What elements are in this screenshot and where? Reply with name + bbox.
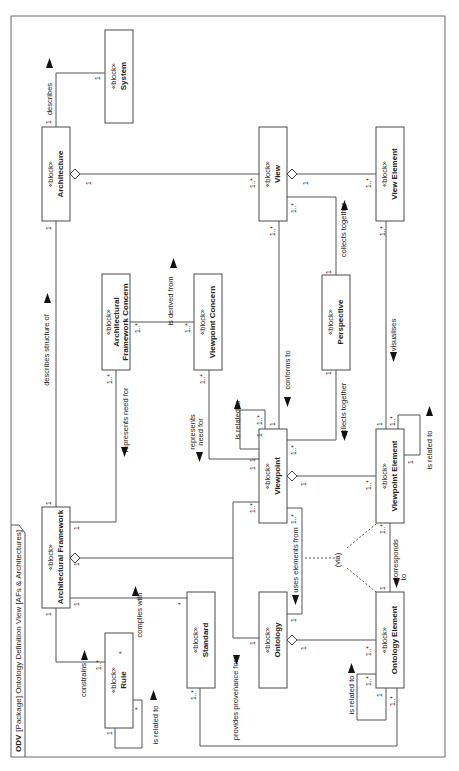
svg-text:1: 1 [256,433,263,437]
svg-text:1: 1 [249,466,256,470]
svg-text:1..*: 1..* [365,178,372,188]
svg-text:1..*: 1..* [95,660,102,670]
label-oelement-is-related-to: is related to [347,676,356,715]
svg-text:1..*: 1..* [290,514,297,524]
svg-text:1: 1 [106,731,113,735]
block-viewpoint[interactable]: «block» Viewpoint [259,429,287,523]
svg-text:1: 1 [73,602,80,606]
label-collects-together-view: collects together [339,202,348,257]
label-need-for: need for [196,418,205,446]
block-name-line1: Architectural [112,297,121,346]
svg-text:1..*: 1..* [249,178,256,188]
block-view[interactable]: «block» View [259,127,287,221]
label-describes: describes [45,83,54,115]
label-to: to [399,574,408,580]
svg-text:1: 1 [249,458,256,462]
svg-text:1: 1 [325,371,332,375]
block-name: Standard [201,623,210,658]
block-name: System [119,62,128,90]
label-visualises: visualises [389,318,398,351]
svg-text:1: 1 [407,460,414,464]
stereotype: «block» [380,627,389,653]
svg-text:1: 1 [290,618,297,622]
block-ontology-element[interactable]: «block» Ontology Element [376,592,404,688]
svg-text:1: 1 [94,76,101,80]
block-name: View Element [390,148,399,200]
stereotype: «block» [109,667,118,693]
label-describes-structure-of: describes structure of [42,313,51,386]
block-name: Perspective [336,299,345,344]
odv-diagram: ODV[Package] Ontology Definition View [A… [0,0,459,771]
label-rule-is-related-to: is related to [151,706,160,745]
svg-text:1: 1 [249,641,256,645]
label-uses-elements-from: uses elements from [291,527,300,592]
label-constrains: constrains [79,663,88,697]
svg-text:1..*: 1..* [190,690,197,700]
svg-text:1..*: 1..* [290,203,297,213]
block-perspective[interactable]: «block» Perspective [322,275,350,370]
block-rule[interactable]: «block» Rule * [105,633,133,728]
label-vpelement-is-related-to: is related to [425,431,434,470]
stereotype: «block» [326,309,335,335]
svg-text:1..*: 1..* [365,646,372,656]
svg-text:1: 1 [379,586,386,590]
svg-text:1: 1 [300,646,307,650]
block-name-line2: Framework Concern [121,283,130,360]
svg-text:1..*: 1..* [379,226,386,236]
svg-text:1..*: 1..* [106,374,113,384]
stereotype: «block» [198,309,207,335]
svg-text:1: 1 [376,693,383,697]
svg-text:1: 1 [269,422,276,426]
block-name: Architectural Framework [56,509,65,604]
block-name: Ontology [273,622,282,658]
block-name: Rule [119,671,128,689]
stereotype: «block» [263,463,272,489]
svg-text:1: 1 [85,181,92,185]
svg-text:1..*: 1..* [389,696,396,706]
block-standard[interactable]: «block» Standard [187,592,215,688]
svg-text:1: 1 [45,226,52,230]
svg-text:1..*: 1..* [379,524,386,534]
label-complies-with: complies with [135,592,144,637]
block-name: Architecture [56,150,65,198]
svg-text:1: 1 [45,612,52,616]
label-collects-together-viewpoint: collects together [339,382,348,437]
svg-text:1..*: 1..* [290,445,297,455]
svg-text:1..*: 1..* [389,416,396,426]
label-is-derived-from: is derived from [166,276,175,325]
svg-text:1: 1 [376,422,383,426]
block-af-concern[interactable]: «block» Architectural Framework Concern [102,274,130,370]
block-architecture[interactable]: «block» Architecture [42,127,70,221]
block-architectural-framework[interactable]: «block» Architectural Framework [42,507,70,608]
svg-text:1: 1 [325,270,332,274]
block-name: Ontology Element [390,605,399,674]
block-system[interactable]: «block» System [105,30,133,123]
svg-text:1..*: 1..* [199,374,206,384]
block-name: View [273,164,282,183]
stereotype: «block» [46,544,55,570]
stereotype: «block» [109,63,118,89]
svg-text:1..*: 1..* [256,415,263,425]
stereotype: «block» [46,161,55,187]
svg-text:1..*: 1..* [184,323,191,333]
label-conforms-to: conforms to [283,350,292,389]
block-name: Viewpoint Element [390,440,399,511]
stereotype: «block» [263,627,272,653]
label-via: (via) [333,552,342,567]
frame-title: ODV[Package] Ontology Definition View [A… [14,530,23,752]
label-af-represents-need-for: represents need for [121,387,130,453]
svg-text:1..*: 1..* [134,323,141,333]
svg-text:1..*: 1..* [249,503,256,513]
svg-text:1: 1 [302,181,309,185]
block-ontology[interactable]: «block» Ontology [259,592,287,688]
block-viewpoint-element[interactable]: «block» Viewpoint Element [376,429,404,523]
label-provides-provenance-for: provides provenance for [231,659,240,740]
stereotype: «block» [380,463,389,489]
block-viewpoint-concern[interactable]: «block» Viewpoint Concern [194,274,222,370]
stereotype: «block» [380,161,389,187]
svg-text:1: 1 [300,482,307,486]
svg-text:1: 1 [45,120,52,124]
block-name: Viewpoint Concern [208,286,217,358]
svg-text:1..*: 1..* [365,480,372,490]
block-view-element[interactable]: «block» View Element [376,127,404,221]
